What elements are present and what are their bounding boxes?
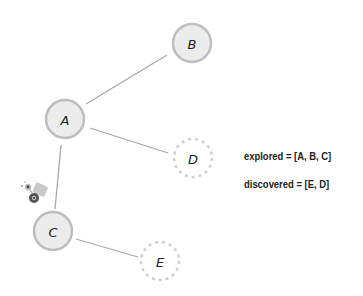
node-d-label: D — [188, 152, 198, 167]
edge-a-b — [86, 55, 167, 104]
edge-c-e — [76, 239, 138, 257]
edge-a-c — [55, 145, 61, 209]
node-b-label: B — [188, 37, 197, 52]
explored-list: explored = [A, B, C] — [244, 150, 331, 162]
node-e-label: E — [156, 255, 165, 270]
discovered-list: discovered = [E, D] — [244, 178, 329, 190]
node-c: C — [34, 212, 72, 250]
node-a: A — [46, 100, 84, 138]
node-b: B — [173, 24, 211, 62]
graph-diagram: B A C D E — [0, 0, 363, 296]
spider-bot-icon — [18, 178, 52, 208]
node-a-label: A — [60, 113, 70, 128]
node-c-label: C — [48, 225, 58, 240]
node-e: E — [141, 242, 179, 280]
node-d: D — [174, 139, 212, 177]
edge-a-d — [90, 128, 168, 153]
